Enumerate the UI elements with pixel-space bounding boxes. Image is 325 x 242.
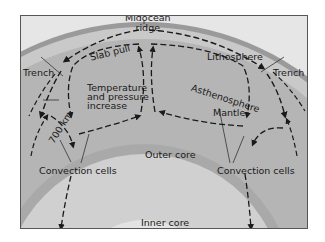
label-mantle: Mantle xyxy=(213,108,245,118)
label-trench-left: Trench xyxy=(23,68,54,78)
label-temp-line3: increase xyxy=(87,101,149,110)
label-inner-core: Inner core xyxy=(141,218,189,228)
label-trench-right: Trench xyxy=(273,68,304,78)
diagram-frame: Midocean ridge Slab pull Lithosphere Tre… xyxy=(20,15,308,229)
label-midocean-line2: ridge xyxy=(125,23,171,33)
label-convection-cells-right: Convection cells xyxy=(217,166,295,176)
label-lithosphere: Lithosphere xyxy=(207,52,263,62)
label-temperature-pressure: Temperature and pressure increase xyxy=(87,83,149,110)
label-convection-cells-left: Convection cells xyxy=(39,166,117,176)
label-outer-core: Outer core xyxy=(145,150,196,160)
label-midocean-ridge: Midocean ridge xyxy=(125,15,171,33)
